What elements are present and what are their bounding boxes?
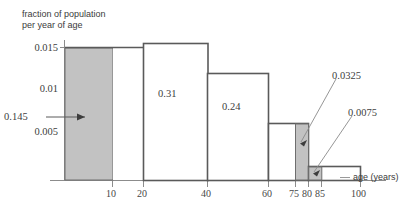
y-tick-label-001: 0.01 [16, 83, 58, 94]
x-tick-label-40: 40 [201, 188, 211, 199]
bar-label-024: 0.24 [222, 101, 240, 112]
annotation-0145: 0.145 [4, 111, 28, 122]
x-tick-label-10: 10 [106, 188, 116, 199]
x-tick-label-100: 100 [351, 188, 366, 199]
annotation-00075: 0.0075 [348, 107, 377, 118]
y-tick-label-0005: 0.005 [16, 126, 58, 137]
bar-10-20 [113, 48, 144, 180]
y-axis-title-line1: fraction of population [22, 9, 106, 20]
x-tick-label-75: 75 [289, 188, 299, 199]
annotation-00325: 0.0325 [332, 70, 361, 81]
x-axis-title: age (years) [353, 172, 399, 183]
x-tick-label-20: 20 [137, 188, 147, 199]
x-tick-label-60: 60 [262, 188, 272, 199]
x-tick-label-85: 85 [315, 188, 325, 199]
y-axis-title-line2: per year of age [22, 20, 83, 31]
callout-line-00075 [314, 116, 352, 172]
bar-label-031: 0.31 [158, 88, 176, 99]
x-tick-label-80: 80 [302, 188, 312, 199]
bar-20-40 [144, 44, 209, 181]
y-tick-label-0015: 0.015 [16, 42, 58, 53]
callout-line-00325 [301, 79, 336, 142]
bar-0-10-shaded [65, 48, 113, 180]
histogram-chart [0, 0, 406, 212]
bar-40-60 [208, 74, 269, 181]
